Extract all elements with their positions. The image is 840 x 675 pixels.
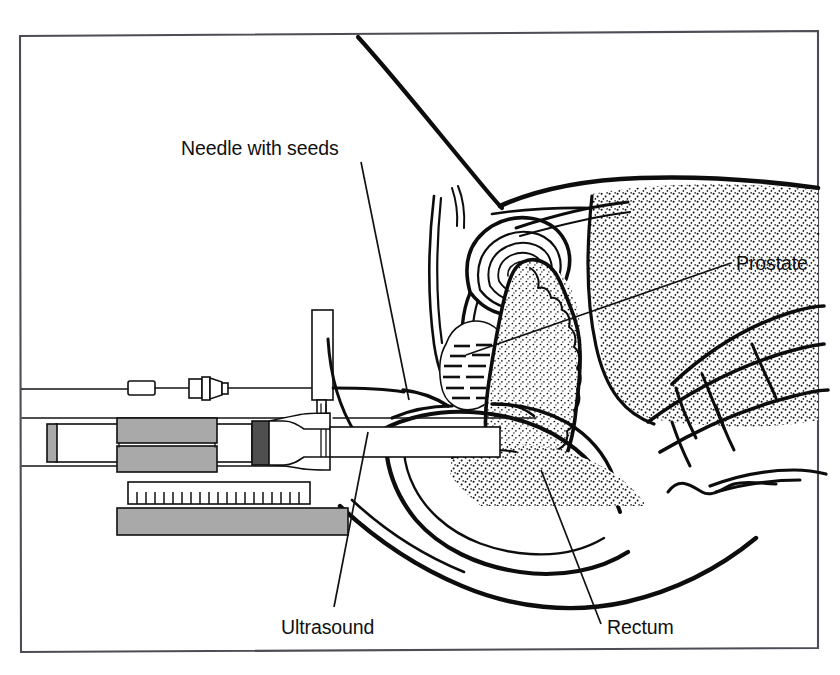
label-prostate: Prostate [736,252,808,274]
probe-dark-collar [252,421,269,465]
probe-end-cap [47,424,57,462]
ultrasound-probe [47,413,500,470]
stepper-base-plate [117,508,348,535]
leader-needle-with-seeds [361,162,409,400]
prostate-brachytherapy-diagram: Needle with seeds Prostate Ultrasound Re… [0,0,840,675]
needle-stylet-handle [128,381,155,395]
luer-hub [189,377,228,400]
label-rectum: Rectum [607,616,674,638]
label-needle-with-seeds: Needle with seeds [181,137,339,159]
label-ultrasound: Ultrasound [281,616,374,638]
figure-root: Needle with seeds Prostate Ultrasound Re… [0,0,840,675]
measuring-scale [128,482,310,504]
needle-shaft [328,339,448,434]
label-needle-with-seeds-group: Needle with seeds [181,137,409,400]
needle-stylet-assembly [128,377,312,400]
